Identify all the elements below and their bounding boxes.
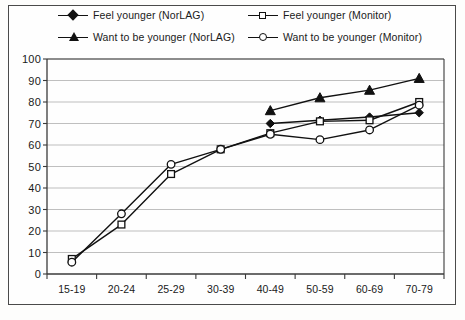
x-axis-tick-label: 60-69	[344, 283, 396, 295]
x-axis-tick-label: 20-24	[95, 283, 147, 295]
data-point-open-circle	[118, 210, 126, 218]
plot-area: 0102030405060708090100 15-1920-2425-2930…	[0, 0, 465, 320]
data-point-open-circle	[267, 130, 275, 138]
data-point-open-square	[118, 221, 125, 228]
data-point-open-circle	[316, 136, 324, 144]
data-point-open-circle	[366, 126, 374, 134]
x-axis-tick-label: 15-19	[46, 283, 98, 295]
data-point-open-circle	[415, 101, 423, 109]
data-point-open-circle	[167, 161, 175, 169]
data-point-open-square	[366, 117, 373, 124]
data-point-open-circle	[217, 146, 225, 154]
chart-canvas	[0, 0, 465, 320]
x-axis-tick-label: 25-29	[145, 283, 197, 295]
x-axis-tick-label: 30-39	[195, 283, 247, 295]
data-point-open-square	[168, 171, 175, 178]
chart-figure: Feel younger (NorLAG) Feel younger (Moni…	[0, 0, 465, 320]
x-axis-tick-label: 40-49	[244, 283, 296, 295]
x-axis-tick-label: 50-59	[294, 283, 346, 295]
data-point-open-square	[317, 118, 324, 125]
data-point-open-circle	[68, 258, 76, 266]
x-axis-tick-label: 70-79	[393, 283, 445, 295]
